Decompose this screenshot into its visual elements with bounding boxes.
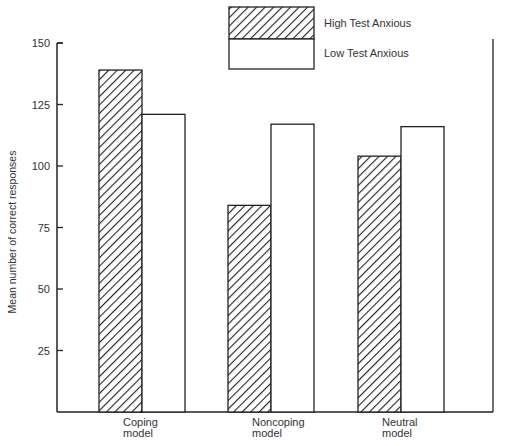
bar-low-0	[142, 114, 185, 412]
y-tick-label: 100	[32, 160, 50, 172]
legend-swatch-high	[229, 7, 314, 39]
category-label: model	[123, 427, 153, 439]
y-tick-label: 25	[38, 345, 50, 357]
category-label: model	[252, 427, 282, 439]
y-tick-label: 50	[38, 283, 50, 295]
y-tick-label: 125	[32, 99, 50, 111]
bar-low-1	[271, 124, 314, 412]
category-label: model	[382, 427, 412, 439]
y-tick-label: 75	[38, 222, 50, 234]
legend-swatch-low	[229, 39, 314, 69]
bar-high-1	[228, 205, 271, 412]
legend-label-high: High Test Anxious	[324, 17, 412, 29]
y-tick-label: 150	[32, 37, 50, 49]
bar-low-2	[401, 127, 444, 412]
bar-high-2	[358, 156, 401, 412]
legend-label-low: Low Test Anxious	[324, 47, 409, 59]
legend: High Test Anxious Low Test Anxious	[229, 7, 412, 69]
y-axis-title: Mean number of correct responses	[6, 151, 18, 314]
bars	[99, 70, 444, 412]
bar-high-0	[99, 70, 142, 412]
category-labels: CopingmodelNoncopingmodelNeutralmodel	[123, 416, 417, 439]
y-axis: 255075100125150	[32, 37, 63, 412]
bar-chart: High Test Anxious Low Test Anxious 25507…	[0, 0, 505, 446]
